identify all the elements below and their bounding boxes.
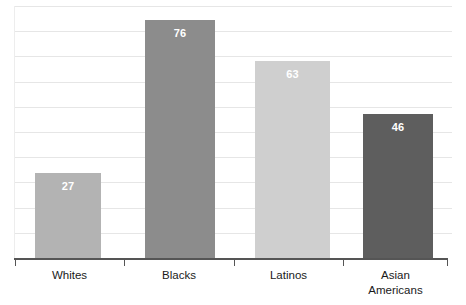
bar-value-label: 76 bbox=[145, 27, 215, 39]
x-axis-tick bbox=[234, 258, 235, 266]
x-axis-tick bbox=[124, 258, 125, 266]
bar[interactable]: 46 bbox=[363, 114, 433, 258]
bar-value-label: 63 bbox=[255, 68, 330, 80]
x-axis-category-labels: WhitesBlacksLatinosAsian Americans bbox=[0, 268, 466, 305]
bar-chart: 27766346 WhitesBlacksLatinosAsian Americ… bbox=[0, 0, 466, 305]
x-axis-tick bbox=[15, 258, 16, 266]
bar[interactable]: 27 bbox=[35, 173, 101, 258]
category-label: Whites bbox=[15, 268, 124, 283]
x-axis-tick bbox=[343, 258, 344, 266]
category-label: Asian Americans bbox=[343, 268, 448, 298]
x-axis-line bbox=[14, 258, 448, 260]
bar-value-label: 27 bbox=[35, 180, 101, 192]
bar-value-label: 46 bbox=[363, 121, 433, 133]
bar[interactable]: 76 bbox=[145, 20, 215, 258]
category-label: Blacks bbox=[124, 268, 234, 283]
bar[interactable]: 63 bbox=[255, 61, 330, 258]
x-axis-tick bbox=[447, 258, 448, 266]
category-label: Latinos bbox=[234, 268, 343, 283]
